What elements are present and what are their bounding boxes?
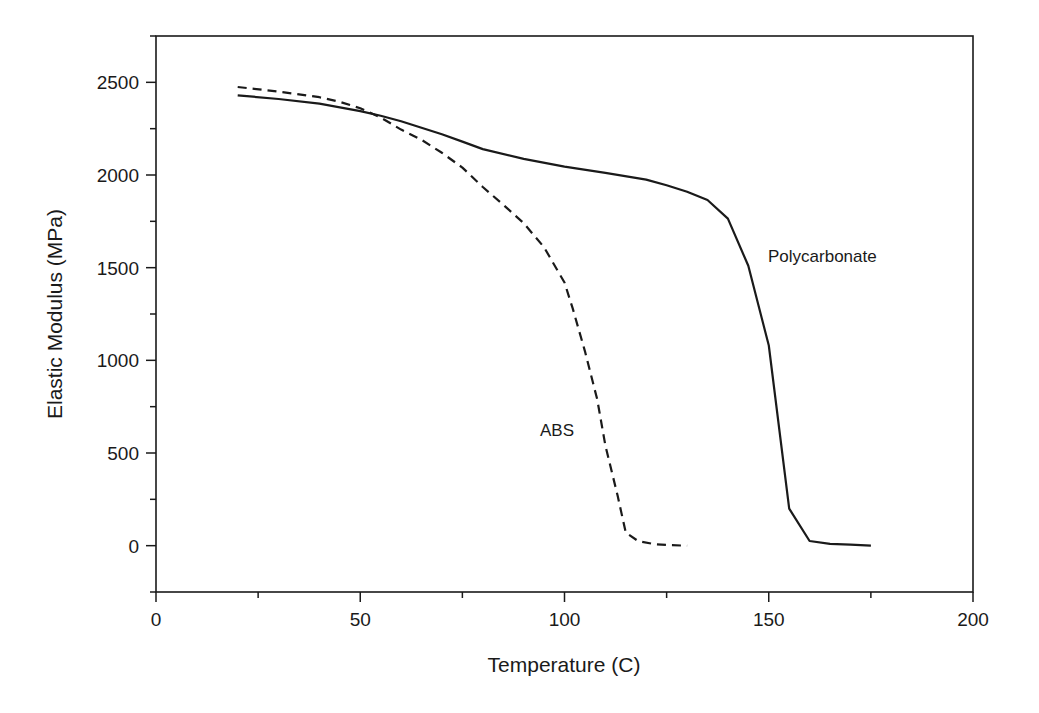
abs-label: ABS <box>540 421 574 440</box>
x-tick-label: 50 <box>350 609 371 630</box>
polycarbonate-label: Polycarbonate <box>768 247 877 266</box>
x-axis-ticks: 050100150200 <box>151 592 989 630</box>
elastic-modulus-chart: 050100150200 05001000150020002500 Polyca… <box>0 0 1039 713</box>
x-axis-title: Temperature (C) <box>488 653 641 676</box>
plot-border <box>156 36 973 592</box>
x-tick-label: 200 <box>957 609 989 630</box>
y-tick-label: 0 <box>128 536 139 557</box>
x-tick-label: 100 <box>549 609 581 630</box>
polycarbonate-curve <box>238 95 871 545</box>
x-tick-label: 0 <box>151 609 162 630</box>
abs-curve <box>238 87 687 546</box>
series-layer <box>238 87 871 546</box>
y-tick-label: 2500 <box>97 72 139 93</box>
y-axis-title: Elastic Modulus (MPa) <box>43 209 66 419</box>
plot-frame <box>156 36 973 592</box>
y-tick-label: 1500 <box>97 258 139 279</box>
y-tick-label: 1000 <box>97 350 139 371</box>
y-axis-ticks: 05001000150020002500 <box>97 36 156 592</box>
y-tick-label: 500 <box>107 443 139 464</box>
x-tick-label: 150 <box>753 609 785 630</box>
y-tick-label: 2000 <box>97 165 139 186</box>
